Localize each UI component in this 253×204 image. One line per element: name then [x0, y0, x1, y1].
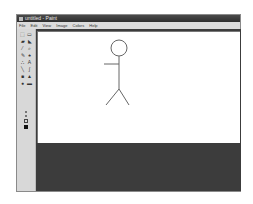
- brush-size-option[interactable]: [25, 111, 27, 113]
- toolbox: ⬚ ▭ ▰ ◣ ⁄ ⌕ ✎ ♠ ∴ A ╲ ∫ ■ ▲ ● ▬: [17, 29, 36, 191]
- paint-window: untitled - Paint File Edit View Image Co…: [16, 14, 241, 192]
- stick-figure-head: [111, 40, 127, 56]
- line-tool-icon[interactable]: ╲: [19, 66, 26, 73]
- window-title: untitled - Paint: [25, 15, 57, 21]
- menu-view[interactable]: View: [43, 23, 52, 28]
- menu-edit[interactable]: Edit: [31, 23, 38, 28]
- stick-figure-right-leg: [119, 89, 129, 105]
- brush-size-option[interactable]: [25, 115, 27, 117]
- drawing-canvas[interactable]: [37, 31, 240, 143]
- fill-bucket-icon[interactable]: ◣: [26, 38, 33, 45]
- menu-bar: File Edit View Image Colors Help: [17, 22, 240, 29]
- stick-figure-drawing: [38, 32, 241, 144]
- airbrush-icon[interactable]: ∴: [19, 59, 26, 66]
- tool-options: [23, 111, 29, 135]
- rectangle-tool-icon[interactable]: ■: [19, 73, 26, 80]
- stick-figure-left-leg: [106, 89, 119, 105]
- select-icon[interactable]: ▭: [26, 31, 33, 38]
- workspace: [36, 29, 241, 191]
- menu-help[interactable]: Help: [89, 23, 97, 28]
- curve-tool-icon[interactable]: ∫: [26, 66, 33, 73]
- pick-color-icon[interactable]: ⁄: [19, 45, 26, 52]
- free-form-select-icon[interactable]: ⬚: [19, 31, 26, 38]
- menu-file[interactable]: File: [19, 23, 25, 28]
- outline-option-icon[interactable]: [24, 119, 28, 123]
- polygon-tool-icon[interactable]: ▲: [26, 73, 33, 80]
- paint-app-icon: [19, 17, 23, 21]
- menu-image[interactable]: Image: [56, 23, 67, 28]
- brush-icon[interactable]: ♠: [26, 52, 33, 59]
- magnifier-icon[interactable]: ⌕: [26, 45, 33, 52]
- ellipse-tool-icon[interactable]: ●: [19, 80, 26, 87]
- pencil-icon[interactable]: ✎: [19, 52, 26, 59]
- menu-colors[interactable]: Colors: [73, 23, 85, 28]
- eraser-icon[interactable]: ▰: [19, 38, 26, 45]
- title-bar[interactable]: untitled - Paint: [17, 15, 240, 22]
- filled-option-icon[interactable]: [24, 125, 28, 129]
- rounded-rectangle-tool-icon[interactable]: ▬: [26, 80, 33, 87]
- text-tool-icon[interactable]: A: [26, 59, 33, 66]
